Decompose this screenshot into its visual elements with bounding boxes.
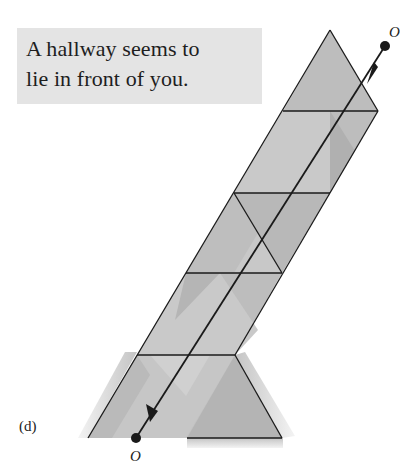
end-point-label: O [130,448,141,465]
start-point-label: O [389,24,400,41]
hallway-segment-1 [234,111,378,193]
figure-label: (d) [19,418,37,435]
hallway-segment-3 [137,273,282,355]
start-point [380,41,390,51]
end-point [131,433,141,443]
top-triangle-panel [283,30,378,111]
